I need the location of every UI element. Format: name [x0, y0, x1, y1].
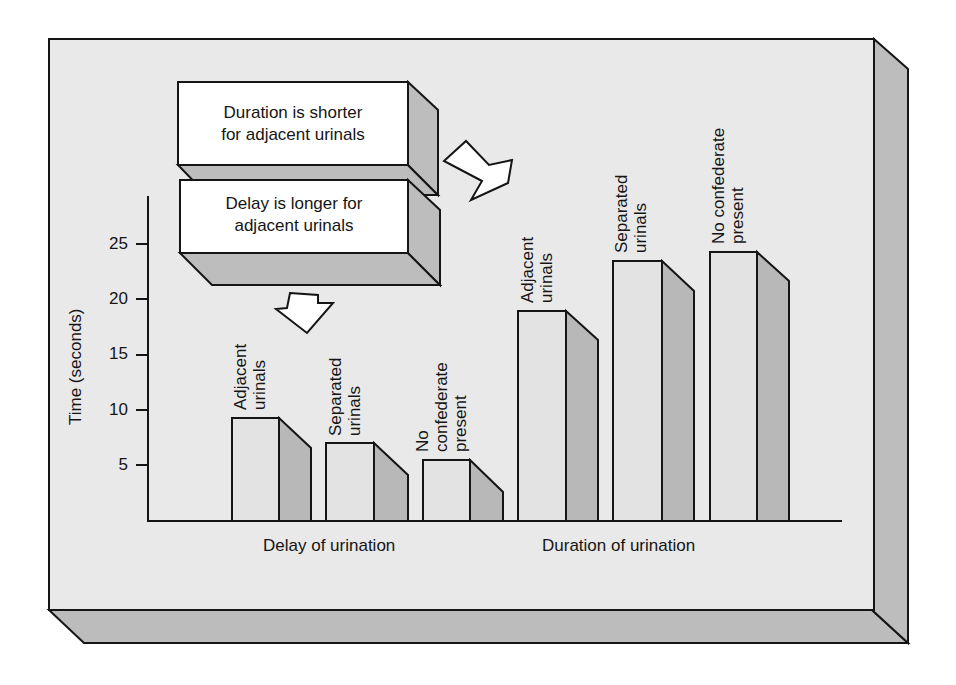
group-label-delay: Delay of urination — [263, 536, 395, 555]
group-label-duration: Duration of urination — [542, 536, 695, 555]
bar-duration-separated — [613, 261, 694, 521]
callout-duration-line-2: for adjacent urinals — [178, 124, 408, 146]
callout-duration-text: Duration is shorter for adjacent urinals — [178, 102, 408, 146]
y-tick-label-10: 10 — [98, 400, 128, 420]
callout-delay-text: Delay is longer for adjacent urinals — [180, 193, 408, 237]
bar-label-delay-adjacent: Adjacent urinals — [231, 344, 269, 410]
y-tick-label-25: 25 — [98, 234, 128, 254]
callout-duration-line-1: Duration is shorter — [178, 102, 408, 124]
y-tick-label-20: 20 — [98, 289, 128, 309]
callout-delay-line-2: adjacent urinals — [180, 215, 408, 237]
callout-delay-line-1: Delay is longer for — [180, 193, 408, 215]
y-tick-label-5: 5 — [98, 455, 128, 475]
chart-canvas — [0, 0, 956, 685]
bar-label-duration-adjacent: Adjacent urinals — [518, 237, 556, 303]
panel-right-face — [872, 39, 908, 643]
bar-label-duration-no-confederate: No confederate present — [709, 128, 747, 244]
y-axis-label: Time (seconds) — [66, 308, 85, 425]
bar-label-duration-separated: Separated urinals — [612, 175, 650, 253]
y-tick-label-15: 15 — [98, 344, 128, 364]
panel-bottom-face — [49, 610, 908, 643]
bar-duration-no-confederate — [710, 252, 789, 521]
bar-label-delay-separated: Separated urinals — [326, 358, 364, 436]
bar-label-delay-no-confederate: No confederate present — [413, 362, 470, 452]
bar-duration-adjacent — [518, 311, 598, 521]
